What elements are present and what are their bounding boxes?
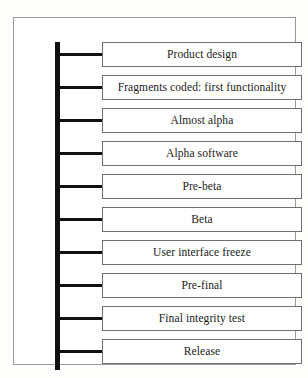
- stage-box-5[interactable]: Pre-beta: [102, 174, 302, 199]
- stage-box-10[interactable]: Release: [102, 339, 302, 364]
- figure-frame: Product design Fragments coded: first fu…: [13, 17, 296, 365]
- stage-box-1[interactable]: Product design: [102, 42, 302, 67]
- stage-row-1: Product design: [60, 42, 302, 67]
- stage-connector-8: [60, 284, 103, 287]
- stage-connector-10: [60, 350, 103, 353]
- stage-connector-5: [60, 185, 103, 188]
- stage-connector-4: [60, 152, 103, 155]
- stage-connector-9: [60, 317, 103, 320]
- stage-label-1: Product design: [167, 49, 237, 61]
- stage-box-7[interactable]: User interface freeze: [102, 240, 302, 265]
- stage-row-8: Pre-final: [60, 273, 302, 298]
- stage-connector-1: [60, 53, 103, 56]
- stage-label-6: Beta: [191, 214, 212, 226]
- stage-box-3[interactable]: Almost alpha: [102, 108, 302, 133]
- stage-row-2: Fragments coded: first functionality: [60, 75, 302, 100]
- stage-box-9[interactable]: Final integrity test: [102, 306, 302, 331]
- stage-box-6[interactable]: Beta: [102, 207, 302, 232]
- stage-box-4[interactable]: Alpha software: [102, 141, 302, 166]
- stage-row-10: Release: [60, 339, 302, 364]
- stage-label-8: Pre-final: [181, 280, 222, 292]
- stage-connector-2: [60, 86, 103, 89]
- stage-row-3: Almost alpha: [60, 108, 302, 133]
- stage-label-7: User interface freeze: [153, 247, 251, 259]
- stage-row-9: Final integrity test: [60, 306, 302, 331]
- stage-row-7: User interface freeze: [60, 240, 302, 265]
- stage-label-4: Alpha software: [166, 148, 238, 160]
- stage-row-4: Alpha software: [60, 141, 302, 166]
- stage-label-3: Almost alpha: [171, 115, 234, 127]
- stage-connector-7: [60, 251, 103, 254]
- stage-box-8[interactable]: Pre-final: [102, 273, 302, 298]
- stage-row-6: Beta: [60, 207, 302, 232]
- stage-label-2: Fragments coded: first functionality: [118, 82, 287, 94]
- stage-label-5: Pre-beta: [182, 181, 221, 193]
- stage-box-2[interactable]: Fragments coded: first functionality: [102, 75, 302, 100]
- stage-row-5: Pre-beta: [60, 174, 302, 199]
- stage-label-10: Release: [184, 346, 220, 358]
- stage-connector-6: [60, 218, 103, 221]
- stage-connector-3: [60, 119, 103, 122]
- stage-label-9: Final integrity test: [159, 313, 245, 325]
